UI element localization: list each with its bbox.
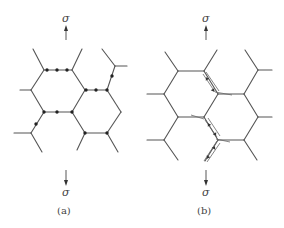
panel-a: σ bbox=[14, 12, 127, 216]
panel-b: σ bbox=[147, 12, 272, 216]
stress-arrow-bottom-b bbox=[204, 170, 208, 186]
shear-arrows-b bbox=[204, 76, 217, 159]
stress-arrow-bottom-a bbox=[64, 170, 68, 186]
caption-b: (b) bbox=[197, 205, 211, 216]
honeycomb-lattice-b bbox=[147, 50, 272, 161]
sigma-label-bottom-a: σ bbox=[62, 186, 70, 199]
caption-a: (a) bbox=[57, 205, 71, 216]
stress-arrow-top-b bbox=[204, 25, 208, 40]
stress-arrow-top-a bbox=[64, 25, 68, 40]
sigma-label-top-b: σ bbox=[202, 12, 210, 25]
plastic-hinges-a bbox=[34, 68, 113, 134]
sigma-label-bottom-b: σ bbox=[202, 186, 210, 199]
figure-canvas: σ bbox=[0, 0, 284, 228]
sigma-label-top-a: σ bbox=[62, 12, 70, 25]
shear-slip-marks-b bbox=[191, 72, 232, 162]
honeycomb-lattice-a bbox=[14, 49, 127, 152]
